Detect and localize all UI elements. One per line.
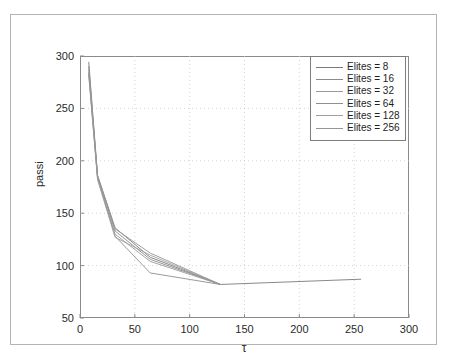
- x-tick-label: 100: [180, 324, 198, 335]
- x-tick-label: 300: [400, 324, 418, 335]
- series-line-3: [89, 73, 221, 285]
- x-tick-label: 250: [345, 324, 363, 335]
- y-tick-label: 100: [34, 260, 74, 271]
- y-tick-label: 300: [34, 51, 74, 62]
- legend-item-label: Elites = 32: [347, 86, 394, 96]
- legend-line-swatch: [316, 79, 343, 80]
- legend-item-label: Elites = 128: [347, 111, 400, 121]
- legend-item[interactable]: Elites = 256: [315, 122, 400, 134]
- series-line-5: [89, 74, 221, 285]
- y-tick-label: 200: [34, 155, 74, 166]
- legend-item-label: Elites = 64: [347, 99, 394, 109]
- y-tick-label: 250: [34, 103, 74, 114]
- x-tick-label: 50: [129, 324, 141, 335]
- legend-item-label: Elites = 16: [347, 74, 394, 84]
- legend-item[interactable]: Elites = 32: [315, 85, 400, 97]
- legend-item[interactable]: Elites = 8: [315, 61, 400, 73]
- legend-item-label: Elites = 256: [347, 123, 400, 133]
- legend-line-swatch: [316, 67, 343, 68]
- x-tick-label: 200: [290, 324, 308, 335]
- legend-item[interactable]: Elites = 16: [315, 73, 400, 85]
- figure-outer-frame: passi τ 50100150200250300050100150200250…: [10, 14, 437, 345]
- legend-rows: Elites = 8Elites = 16Elites = 32Elites =…: [315, 61, 400, 134]
- x-tick-label: 150: [235, 324, 253, 335]
- legend-line-swatch: [316, 103, 343, 104]
- legend-line-swatch: [316, 128, 343, 129]
- legend-line-swatch: [316, 115, 343, 116]
- x-axis-label: τ: [242, 341, 247, 355]
- series-line-2: [89, 70, 221, 285]
- legend-item[interactable]: Elites = 128: [315, 110, 400, 122]
- legend-line-swatch: [316, 91, 343, 92]
- x-tick-label: 0: [77, 324, 83, 335]
- legend-item[interactable]: Elites = 64: [315, 98, 400, 110]
- series-line-1: [89, 66, 221, 284]
- series-line-4: [89, 76, 221, 285]
- legend[interactable]: Elites = 8Elites = 16Elites = 32Elites =…: [310, 56, 406, 141]
- y-tick-label: 150: [34, 208, 74, 219]
- legend-item-label: Elites = 8: [347, 62, 388, 72]
- figure-canvas: passi τ 50100150200250300050100150200250…: [0, 0, 451, 360]
- y-tick-label: 50: [34, 313, 74, 324]
